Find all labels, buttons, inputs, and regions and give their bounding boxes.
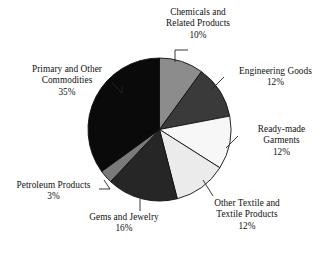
slice-value-other-textile: 12% (198, 221, 296, 232)
slice-label-other-textile-line1: Other Textile and (198, 198, 296, 209)
slice-label-primary-and-other-commodities: Primary and Other Commodities 35% (12, 64, 122, 98)
slice-label-gems-and-jewelry: Gems and Jewelry 16% (72, 212, 176, 235)
slice-label-chemicals: Chemicals and Related Products 10% (143, 7, 253, 41)
slice-label-petroleum-products: Petroleum Products 3% (2, 180, 105, 203)
slice-label-engineering-goods: Engineering Goods 12% (227, 66, 324, 89)
slice-value-ready-made-garments: 12% (240, 147, 323, 158)
slice-value-primary: 35% (12, 87, 122, 98)
pie-chart-figure: Chemicals and Related Products 10% Engin… (0, 0, 326, 256)
slice-label-chemicals-line2: Related Products (143, 18, 253, 29)
slice-value-engineering-goods: 12% (227, 77, 324, 88)
slice-label-other-textile-line2: Textile Products (198, 209, 296, 220)
slice-label-gems-and-jewelry-line1: Gems and Jewelry (72, 212, 176, 223)
slice-value-chemicals: 10% (143, 30, 253, 41)
slice-label-petroleum-products-line1: Petroleum Products (2, 180, 105, 191)
slice-value-petroleum-products: 3% (2, 191, 105, 202)
slice-label-ready-made-garments: Ready-made Garments 12% (240, 124, 323, 158)
slice-value-gems-and-jewelry: 16% (72, 223, 176, 234)
slice-label-engineering-goods-line1: Engineering Goods (227, 66, 324, 77)
slice-label-ready-made-garments-line2: Garments (240, 135, 323, 146)
slice-label-primary-line1: Primary and Other (12, 64, 122, 75)
slice-label-other-textile: Other Textile and Textile Products 12% (198, 198, 296, 232)
slice-label-ready-made-garments-line1: Ready-made (240, 124, 323, 135)
slice-label-chemicals-line1: Chemicals and (143, 7, 253, 18)
slice-label-primary-line2: Commodities (12, 75, 122, 86)
